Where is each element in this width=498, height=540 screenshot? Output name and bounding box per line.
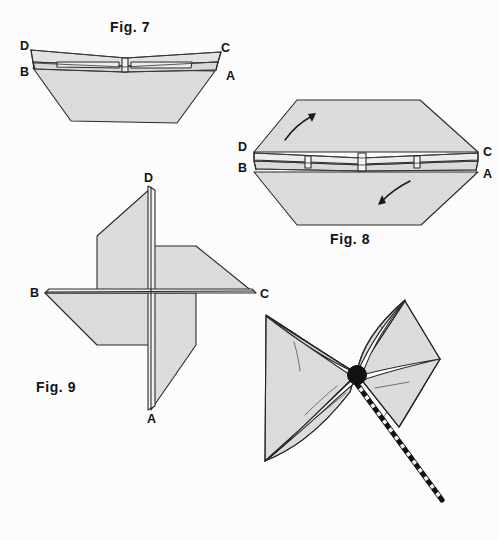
- fig8-label-a: A: [483, 167, 492, 181]
- fig7-label-b: B: [20, 65, 29, 79]
- fig7-caption: Fig. 7: [110, 19, 150, 35]
- fig8-tab-left: [305, 156, 311, 168]
- fig9-label-d: D: [144, 171, 153, 185]
- fig9-blade-upper-left: [97, 188, 151, 293]
- pinwheel-body-right: [357, 301, 440, 427]
- fig7-center-tab: [122, 58, 128, 72]
- fig7-label-d: D: [20, 39, 29, 53]
- fig8-upper-face: [254, 100, 478, 152]
- fig9-blade-lower-left: [45, 293, 151, 345]
- fig9-label-a: A: [147, 412, 156, 426]
- diagram-sheet: Fig. 7 D C B A: [0, 0, 498, 540]
- figure-fig8: Fig. 8 D C B A: [238, 100, 492, 247]
- fig8-label-b: B: [238, 161, 247, 175]
- fig9-blade-upper-right: [151, 246, 253, 292]
- figure-fig7: Fig. 7 D C B A: [20, 19, 235, 123]
- pinwheel-hub-pin: [348, 366, 367, 385]
- fig9-label-c: C: [260, 287, 269, 301]
- fig7-body: [33, 68, 215, 123]
- figure-finished-pinwheel: [265, 300, 442, 500]
- figure-fig9: Fig. 9 D B C A: [30, 171, 269, 426]
- fig9-blade-lower-right: [151, 293, 196, 410]
- fig7-label-a: A: [226, 69, 235, 83]
- fig8-tab-right: [414, 156, 420, 168]
- fig8-caption: Fig. 8: [330, 231, 370, 247]
- fig8-lower-face: [254, 172, 478, 225]
- fig7-label-c: C: [221, 41, 230, 55]
- fig8-tab-center: [358, 153, 366, 171]
- fig9-label-b: B: [30, 286, 39, 300]
- fig8-label-d: D: [238, 140, 247, 154]
- fig8-label-c: C: [483, 145, 492, 159]
- fig9-caption: Fig. 9: [36, 379, 76, 395]
- origami-instruction-diagram: Fig. 7 D C B A: [0, 0, 498, 540]
